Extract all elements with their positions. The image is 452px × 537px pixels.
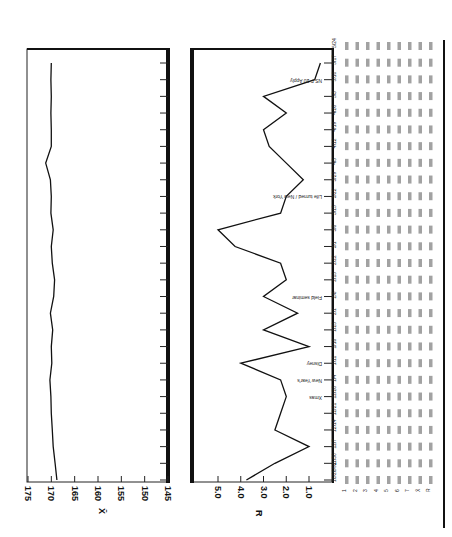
table-cell <box>398 125 402 133</box>
table-cell <box>356 259 360 267</box>
table-cell <box>408 176 412 184</box>
table-cell <box>398 259 402 267</box>
table-cell <box>408 226 412 234</box>
table-cell <box>366 426 370 434</box>
r-axis: 5.04.03.02.01.0 <box>213 476 314 499</box>
table-column-header: 5/17 <box>331 55 337 65</box>
table-cell <box>398 242 402 250</box>
table-column-header: 12/7 <box>331 439 337 449</box>
table-cell <box>429 176 433 184</box>
table-cell <box>408 142 412 150</box>
table-cell <box>345 476 349 484</box>
table-cell <box>387 393 391 401</box>
table-cell <box>398 276 402 284</box>
table-cell <box>387 326 391 334</box>
table-cell <box>429 42 433 50</box>
table-cell <box>356 426 360 434</box>
table-cell <box>377 409 381 417</box>
table-cell <box>356 176 360 184</box>
table-cell <box>398 142 402 150</box>
table-cell <box>377 476 381 484</box>
table-cell <box>345 376 349 384</box>
table-cell <box>398 92 402 100</box>
table-cell <box>377 209 381 217</box>
table-cell <box>366 159 370 167</box>
table-cell <box>377 309 381 317</box>
r-axis-label: R <box>254 510 264 517</box>
table-column-header: 2/15 <box>331 272 337 282</box>
xbar-axis-label: X̄ <box>97 508 107 514</box>
table-cell <box>419 326 423 334</box>
table-cell <box>408 259 412 267</box>
table-cell <box>356 276 360 284</box>
table-cell <box>408 92 412 100</box>
table-cell <box>419 259 423 267</box>
table-cell <box>377 259 381 267</box>
table-cell <box>429 359 433 367</box>
xbar-tick-label: 165 <box>70 486 80 501</box>
xbar-tick-label: 150 <box>140 486 150 501</box>
table-cell <box>366 393 370 401</box>
table-cell <box>345 393 349 401</box>
table-cell <box>429 426 433 434</box>
table-cell <box>377 326 381 334</box>
data-table: 10/26/9211/3012/712/1412/2112/281/41/111… <box>331 38 433 492</box>
table-cell <box>419 393 423 401</box>
table-cell <box>387 125 391 133</box>
table-cell <box>387 59 391 67</box>
table-cell <box>408 309 412 317</box>
r-tick-label: 4.0 <box>236 486 246 499</box>
table-cell <box>398 393 402 401</box>
table-cell <box>419 476 423 484</box>
table-cell <box>408 125 412 133</box>
table-cell <box>356 376 360 384</box>
table-cell <box>419 292 423 300</box>
table-cell <box>356 443 360 451</box>
table-cell <box>408 393 412 401</box>
table-column-header: 1/18 <box>331 339 337 349</box>
table-row-label: 4 <box>373 489 379 492</box>
table-cell <box>366 342 370 350</box>
table-cell <box>398 326 402 334</box>
table-cell <box>366 376 370 384</box>
table-cell <box>419 125 423 133</box>
table-cell <box>377 159 381 167</box>
table-cell <box>419 142 423 150</box>
table-cell <box>377 176 381 184</box>
table-cell <box>408 242 412 250</box>
xbar-tick-label: 155 <box>116 486 126 501</box>
table-cell <box>377 92 381 100</box>
table-cell <box>398 59 402 67</box>
table-cell <box>366 459 370 467</box>
table-cell <box>377 59 381 67</box>
table-cell <box>398 359 402 367</box>
table-cell <box>408 42 412 50</box>
table-cell <box>377 443 381 451</box>
table-cell <box>345 326 349 334</box>
table-cell <box>398 176 402 184</box>
control-chart: 175170165160155150145 X̄ XmasNew Year'sD… <box>0 0 452 537</box>
table-cell <box>345 209 349 217</box>
table-cell <box>419 359 423 367</box>
table-cell <box>408 409 412 417</box>
table-cell <box>429 159 433 167</box>
table-cell <box>377 342 381 350</box>
table-cell <box>366 292 370 300</box>
table-cell <box>398 476 402 484</box>
table-cell <box>408 209 412 217</box>
table-column-header: 3/1 <box>331 241 337 248</box>
table-cell <box>398 75 402 83</box>
table-cell <box>387 409 391 417</box>
table-cell <box>345 276 349 284</box>
table-cell <box>408 159 412 167</box>
table-cell <box>419 59 423 67</box>
table-cell <box>377 125 381 133</box>
table-column-header: 3/8 <box>331 224 337 231</box>
table-column-header: 2/8 <box>331 291 337 298</box>
table-cell <box>356 192 360 200</box>
table-cell <box>345 125 349 133</box>
table-cell <box>419 426 423 434</box>
table-cell <box>419 443 423 451</box>
table-cell <box>429 292 433 300</box>
table-cell <box>366 259 370 267</box>
